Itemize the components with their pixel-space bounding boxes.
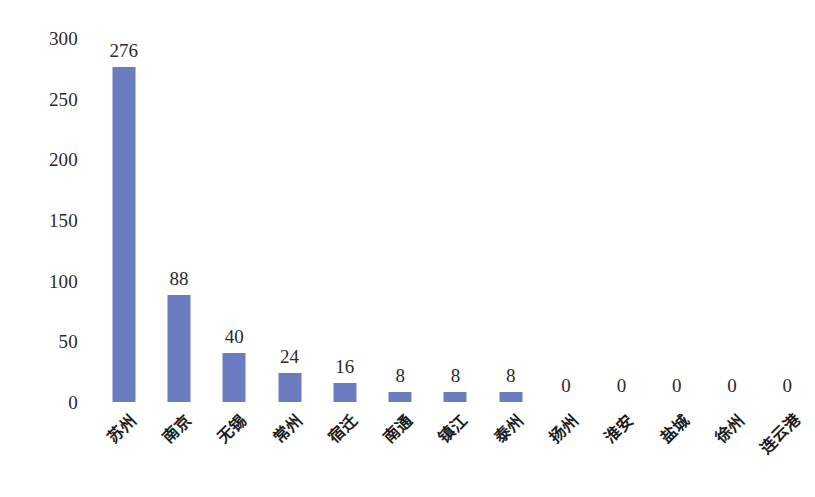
y-axis-tick-label: 150 bbox=[8, 211, 78, 230]
bar-chart: 050100150200250300 276苏州88南京40无锡24常州16宿迁… bbox=[0, 0, 815, 497]
bar-value-label: 16 bbox=[335, 357, 354, 376]
bar[interactable] bbox=[499, 392, 522, 402]
bar-value-label: 0 bbox=[561, 376, 571, 395]
bar-group[interactable]: 8镇江 bbox=[428, 0, 483, 497]
bar-value-label: 0 bbox=[727, 376, 737, 395]
y-axis-tick-label: 300 bbox=[8, 29, 78, 48]
bar-value-label: 88 bbox=[169, 269, 188, 288]
bar-group[interactable]: 276苏州 bbox=[96, 0, 151, 497]
bar-value-label: 276 bbox=[109, 41, 138, 60]
bar-group[interactable]: 24常州 bbox=[262, 0, 317, 497]
bar-group[interactable]: 0徐州 bbox=[704, 0, 759, 497]
bar-group[interactable]: 8泰州 bbox=[483, 0, 538, 497]
bar[interactable] bbox=[389, 392, 412, 402]
bar[interactable] bbox=[167, 295, 190, 402]
bar-value-label: 0 bbox=[617, 376, 627, 395]
bar-group[interactable]: 0盐城 bbox=[649, 0, 704, 497]
bar-group[interactable]: 0淮安 bbox=[594, 0, 649, 497]
bar-group[interactable]: 0扬州 bbox=[538, 0, 593, 497]
bar[interactable] bbox=[278, 373, 301, 402]
bar-value-label: 0 bbox=[672, 376, 682, 395]
y-axis-tick-label: 250 bbox=[8, 89, 78, 108]
bar-value-label: 8 bbox=[451, 366, 461, 385]
bar-value-label: 8 bbox=[395, 366, 405, 385]
bar-value-label: 40 bbox=[225, 327, 244, 346]
bar[interactable] bbox=[112, 67, 135, 402]
plot-area: 276苏州88南京40无锡24常州16宿迁8南通8镇江8泰州0扬州0淮安0盐城0… bbox=[96, 0, 815, 497]
bar-group[interactable]: 16宿迁 bbox=[317, 0, 372, 497]
bar-value-label: 0 bbox=[783, 376, 793, 395]
bar-value-label: 24 bbox=[280, 347, 299, 366]
bar-group[interactable]: 8南通 bbox=[373, 0, 428, 497]
y-axis-tick-label: 100 bbox=[8, 271, 78, 290]
bar-value-label: 8 bbox=[506, 366, 516, 385]
bar[interactable] bbox=[444, 392, 467, 402]
bar[interactable] bbox=[223, 353, 246, 402]
y-axis: 050100150200250300 bbox=[0, 0, 86, 497]
bar-group[interactable]: 40无锡 bbox=[207, 0, 262, 497]
y-axis-tick-label: 0 bbox=[8, 393, 78, 412]
y-axis-tick-label: 200 bbox=[8, 150, 78, 169]
y-axis-tick-label: 50 bbox=[8, 332, 78, 351]
bar-group[interactable]: 88南京 bbox=[151, 0, 206, 497]
bar-group[interactable]: 0连云港 bbox=[760, 0, 815, 497]
bar[interactable] bbox=[333, 383, 356, 402]
